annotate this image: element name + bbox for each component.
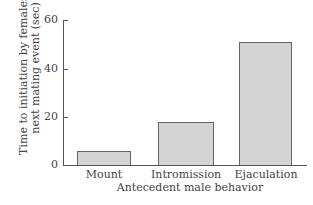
y-tick-label: 20 xyxy=(38,111,58,123)
y-tick-60 xyxy=(63,20,68,21)
bar-mount xyxy=(77,151,131,166)
y-tick-20 xyxy=(63,117,68,118)
bar-intromission xyxy=(158,122,214,166)
category-label-intromission: Intromission xyxy=(151,168,221,181)
y-axis xyxy=(63,20,64,166)
x-axis xyxy=(63,165,307,166)
y-tick-label: 60 xyxy=(38,14,58,26)
bar-ejaculation xyxy=(239,42,292,165)
category-label-ejaculation: Ejaculation xyxy=(233,168,299,181)
y-tick-label: 0 xyxy=(38,159,58,171)
y-tick-40 xyxy=(63,69,68,70)
x-axis-label: Antecedent male behavior xyxy=(90,181,290,194)
category-label-mount: Mount xyxy=(74,168,134,181)
y-tick-label: 40 xyxy=(38,63,58,75)
